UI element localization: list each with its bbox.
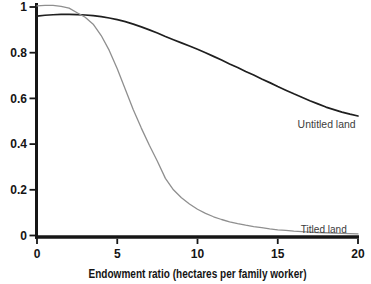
- y-tick-label: 1: [20, 0, 27, 14]
- x-tick-label: 5: [114, 247, 121, 261]
- y-tick-label: 0.6: [10, 92, 27, 106]
- x-axis-title: Endowment ratio (hectares per family wor…: [89, 267, 307, 281]
- line-chart: 00.20.40.60.8105101520 Endowment ratio (…: [0, 0, 371, 284]
- series-label-titled-land: Titled land: [301, 224, 347, 235]
- x-tick-label: 10: [191, 247, 205, 261]
- series-line-untitled-land: [37, 14, 358, 116]
- tick-marks: 00.20.40.60.8105101520: [10, 0, 365, 260]
- y-tick-label: 0: [20, 229, 27, 243]
- y-tick-label: 0.2: [10, 183, 27, 197]
- y-tick-label: 0.4: [10, 137, 27, 151]
- x-tick-label: 0: [34, 247, 41, 261]
- y-tick-label: 0.8: [10, 46, 27, 60]
- x-tick-label: 15: [271, 247, 285, 261]
- chart-figure: 00.20.40.60.8105101520 Endowment ratio (…: [0, 0, 371, 284]
- series-label-untitled-land: Untitled land: [298, 119, 356, 130]
- x-tick-label: 20: [351, 247, 365, 261]
